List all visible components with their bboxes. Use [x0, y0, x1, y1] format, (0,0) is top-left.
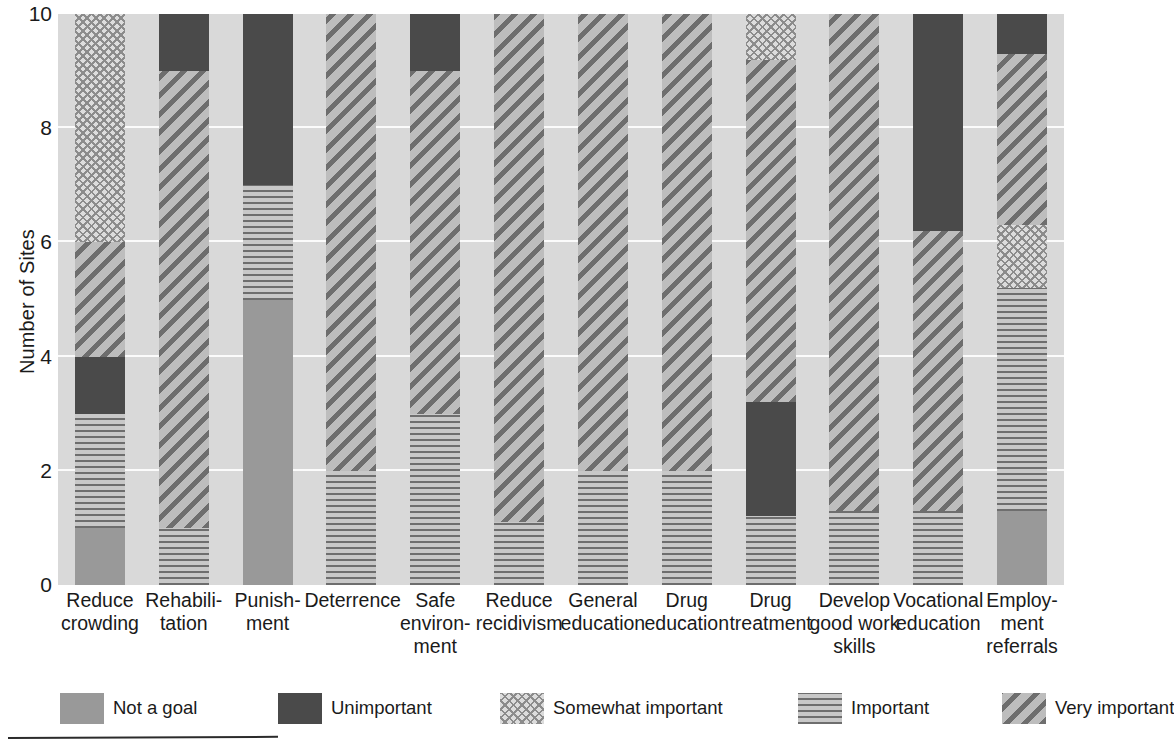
x-tick-label-line: Reduce	[472, 589, 566, 612]
bar-segment	[746, 402, 796, 516]
x-tick-label-line: environ-	[388, 612, 482, 635]
legend-label: Not a goal	[113, 697, 197, 719]
bar-rehabilitation	[159, 14, 209, 585]
x-tick-label-line: good work	[807, 612, 901, 635]
x-tick-label: Punish-ment	[221, 589, 315, 635]
bar-segment	[159, 528, 209, 585]
bar-segment	[662, 471, 712, 585]
bar-reduce-crowding	[75, 14, 125, 585]
x-tick-label-line: ment	[388, 635, 482, 658]
x-tick-label-line: Drug	[640, 589, 734, 612]
bar-segment	[159, 14, 209, 71]
bar-segment	[913, 14, 963, 231]
bar-segment	[746, 516, 796, 585]
bar-segment	[913, 511, 963, 585]
bar-segment	[997, 511, 1047, 585]
x-tick-label-line: Safe	[388, 589, 482, 612]
bar-segment	[326, 14, 376, 471]
bar-segment	[494, 14, 544, 522]
x-tick-label-line: ment	[221, 612, 315, 635]
bar-segment	[997, 225, 1047, 288]
bar-segment	[75, 242, 125, 356]
legend-item-important[interactable]: Important	[798, 692, 929, 724]
bar-segment	[75, 357, 125, 414]
bar-reduce-recidivism	[494, 14, 544, 585]
x-tick-label: Vocationaleducation	[891, 589, 985, 635]
x-tick-label-line: Vocational	[891, 589, 985, 612]
x-tick-label: Generaleducation	[556, 589, 650, 635]
bottom-rule-divider	[8, 736, 278, 739]
x-tick-label-line: General	[556, 589, 650, 612]
bar-segment	[746, 14, 796, 60]
x-tick-label-line: crowding	[53, 612, 147, 635]
bar-segment	[829, 511, 879, 585]
bar-segment	[75, 414, 125, 528]
x-tick-label: Rehabili-tation	[137, 589, 231, 635]
y-tick-label: 6	[8, 231, 52, 252]
x-tick-label-line: Rehabili-	[137, 589, 231, 612]
x-tick-label-line: recidivism	[472, 612, 566, 635]
legend-swatch	[500, 693, 544, 724]
bar-segment	[578, 14, 628, 471]
x-tick-label: Developgood workskills	[807, 589, 901, 658]
legend-label: Somewhat important	[553, 697, 723, 719]
legend-swatch	[798, 693, 842, 724]
legend-label: Important	[851, 697, 929, 719]
bar-segment	[243, 185, 293, 299]
bar-develop-good-work-skills	[829, 14, 879, 585]
x-tick-label-line: education	[640, 612, 734, 635]
x-tick-label-line: Drug	[724, 589, 818, 612]
bar-segment	[159, 71, 209, 528]
bar-employment-referrals	[997, 14, 1047, 585]
y-axis-tick-labels: 0246810	[0, 0, 52, 748]
x-axis-tick-labels: ReducecrowdingRehabili-tationPunish-ment…	[58, 589, 1064, 669]
legend-item-somewhat[interactable]: Somewhat important	[500, 692, 723, 724]
legend-label: Very important	[1055, 697, 1174, 719]
bar-segment	[913, 231, 963, 511]
legend-item-very[interactable]: Very important	[1002, 692, 1174, 724]
x-tick-label-line: Develop	[807, 589, 901, 612]
legend-item-unimp[interactable]: Unimportant	[278, 692, 432, 724]
y-tick-label: 8	[8, 117, 52, 138]
x-tick-label: Drugtreatment	[724, 589, 818, 635]
bar-segment	[410, 14, 460, 71]
x-tick-label-line: Employ-	[975, 589, 1069, 612]
legend-swatch	[60, 693, 104, 724]
x-tick-label: Employ-mentreferrals	[975, 589, 1069, 658]
bar-drug-treatment	[746, 14, 796, 585]
bar-segment	[494, 522, 544, 585]
bar-vocational-education	[913, 14, 963, 585]
x-tick-label-line: ment	[975, 612, 1069, 635]
legend-item-notgoal[interactable]: Not a goal	[60, 692, 197, 724]
bar-segment	[578, 471, 628, 585]
legend-swatch	[278, 693, 322, 724]
x-tick-label-line: Deterrence	[304, 589, 398, 612]
x-tick-label-line: Punish-	[221, 589, 315, 612]
bar-segment	[75, 528, 125, 585]
x-tick-label: Drugeducation	[640, 589, 734, 635]
bar-segment	[829, 14, 879, 511]
x-tick-label-line: education	[891, 612, 985, 635]
y-tick-label: 4	[8, 346, 52, 367]
legend-swatch	[1002, 693, 1046, 724]
x-tick-label: Deterrence	[304, 589, 398, 612]
legend-label: Unimportant	[331, 697, 432, 719]
bar-segment	[243, 14, 293, 185]
bar-segment	[410, 414, 460, 585]
x-tick-label-line: skills	[807, 635, 901, 658]
plot-area	[58, 14, 1064, 585]
bar-segment	[243, 300, 293, 586]
x-tick-label-line: treatment	[724, 612, 818, 635]
bar-drug-education	[662, 14, 712, 585]
bar-punishment	[243, 14, 293, 585]
x-tick-label: Reducerecidivism	[472, 589, 566, 635]
y-tick-label: 0	[8, 574, 52, 595]
bar-general-education	[578, 14, 628, 585]
x-tick-label: Safeenviron-ment	[388, 589, 482, 658]
y-tick-label: 10	[8, 3, 52, 24]
bar-deterrence	[326, 14, 376, 585]
bar-segment	[997, 54, 1047, 225]
x-tick-label-line: referrals	[975, 635, 1069, 658]
bar-segment	[662, 14, 712, 471]
